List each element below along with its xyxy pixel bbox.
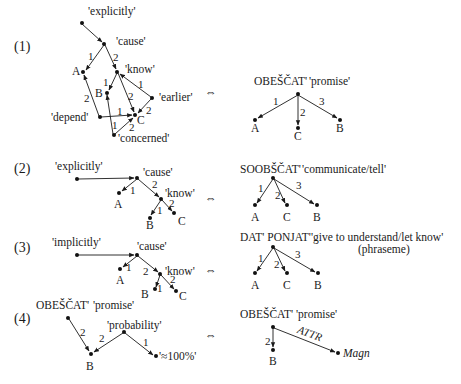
node-dot — [89, 352, 93, 356]
edge-label: ATTR — [295, 323, 324, 344]
node-dot — [253, 203, 257, 207]
node-dot — [296, 92, 300, 96]
edge-label: 1 — [112, 119, 118, 131]
lexeme-gloss: 'promise' — [309, 75, 350, 88]
edge-label: 2 — [80, 326, 86, 338]
edge — [69, 319, 89, 351]
lexeme-gloss: 'communicate/tell' — [302, 163, 386, 175]
node-label: 'cause' — [116, 35, 146, 47]
node-dot — [105, 91, 109, 95]
node-label: 'explicitly' — [88, 5, 136, 18]
node-label: 'cause' — [143, 166, 173, 178]
edge — [120, 74, 151, 97]
diagram-index: (4) — [14, 311, 31, 327]
diagram-index: (3) — [14, 240, 31, 256]
edge-label: 2 — [143, 265, 149, 277]
node-dot — [271, 348, 275, 352]
node-label: B — [269, 355, 277, 367]
node-dot — [253, 271, 257, 275]
edge-label: 1 — [103, 76, 109, 88]
diagram-2-right-tree: SOOBŠČAT' 'communicate/tell' 1 2 3 A C B — [240, 162, 386, 223]
edge-label: 2 — [84, 92, 90, 104]
edge-label: 2 — [128, 90, 134, 102]
node-dot — [75, 253, 79, 257]
node-dot — [135, 253, 139, 257]
lexeme-gloss: 'promise' — [296, 308, 337, 321]
edge-label: 1 — [88, 50, 94, 62]
node-label: Magn — [342, 347, 370, 360]
node-dot — [316, 271, 320, 275]
diagram-index: (2) — [14, 161, 31, 177]
node-dot — [135, 176, 139, 180]
diagram-2: (2) 'explicitly' 'cause' A 'know' B C 1 … — [14, 160, 386, 231]
edge-label: 3 — [319, 95, 325, 107]
diagram-1: (1) 'explicitly' 'cause' A ' — [14, 5, 350, 144]
node-dot — [271, 245, 275, 249]
node-label: B — [336, 122, 344, 134]
lexeme-head: OBEŠČAT' — [36, 298, 89, 311]
node-label: A — [251, 211, 260, 223]
node-label: C — [178, 215, 186, 227]
node-label: 'depend' — [51, 111, 88, 124]
node-label: C — [283, 279, 291, 291]
diagram-1-left-graph: 'explicitly' 'cause' A 'know' B 'earlier… — [51, 5, 193, 144]
diagram-2-left-graph: 'explicitly' 'cause' A 'know' B C 1 2 1 … — [55, 160, 195, 231]
node-dot — [336, 351, 340, 355]
edge-label: 2 — [113, 51, 119, 63]
lexeme-head: OBEŠČAT' — [240, 307, 293, 320]
node-label: A — [114, 198, 123, 210]
lexeme-head: SOOBŠČAT' — [240, 162, 301, 175]
node-label: B — [86, 360, 94, 372]
equivalence-icon: ⇔ — [205, 192, 217, 204]
edge-label: 2 — [169, 197, 175, 209]
edge-label: 2 — [146, 104, 152, 116]
node-dot — [271, 325, 275, 329]
node-dot — [66, 316, 70, 320]
edge-label: 2 — [300, 106, 306, 118]
node-label: B — [95, 87, 103, 99]
diagram-3-left-graph: 'implicitly' 'cause' A 'know' B C 1 2 1 … — [52, 236, 195, 302]
edge-label: 1 — [157, 204, 163, 216]
edge-label: 1 — [157, 282, 163, 294]
edge-label: 1 — [138, 78, 144, 90]
equivalence-icon: ⇔ — [205, 329, 217, 341]
edge-label: 2 — [275, 189, 281, 201]
semantic-syntactic-diagrams: (1) 'explicitly' 'cause' A ' — [0, 0, 461, 384]
node-dot — [174, 289, 178, 293]
node-dot — [315, 203, 319, 207]
node-label: 'explicitly' — [55, 160, 103, 173]
lexeme-head: DAT' PONJAT' — [240, 231, 311, 243]
equivalence-icon: ⇔ — [205, 86, 217, 98]
node-label: 'earlier' — [159, 91, 193, 103]
edge-label: 1 — [126, 261, 132, 273]
edge-label: 3 — [295, 248, 301, 260]
edge-label: 1 — [117, 105, 123, 117]
node-dot — [154, 354, 158, 358]
diagram-4-right-tree: OBEŠČAT' 'promise' 2 ATTR B Magn — [240, 307, 370, 367]
node-dot — [172, 211, 176, 215]
node-dot — [117, 191, 121, 195]
edge — [109, 73, 117, 90]
diagram-1-right-tree: OBEŠČAT' 'promise' 1 2 3 A C B — [251, 74, 350, 142]
lexeme-head: OBEŠČAT' — [254, 74, 307, 87]
edge-label: 1 — [130, 184, 136, 196]
edge-label: 2 — [152, 178, 158, 190]
node-dot — [159, 197, 163, 201]
node-label: '≈100%' — [159, 350, 196, 362]
node-dot — [285, 271, 289, 275]
node-label: 'know' — [125, 63, 155, 75]
edge-label: 2 — [129, 121, 135, 133]
diagram-index: (1) — [14, 39, 31, 55]
edge-label: 2 — [99, 332, 105, 344]
diagram-4: (4) OBEŠČAT' 'promise' B 'probability' '… — [14, 298, 370, 372]
edge-label: 2 — [274, 258, 280, 270]
node-label: C — [294, 130, 302, 142]
node-dot — [150, 96, 154, 100]
node-label: 'cause' — [137, 240, 167, 252]
edge-label: 1 — [143, 336, 149, 348]
edge-label: 2 — [265, 335, 271, 347]
node-dot — [112, 133, 116, 137]
equivalence-icon: ⇔ — [205, 264, 217, 276]
edge — [78, 178, 134, 179]
node-label: 'concerned' — [118, 132, 169, 144]
